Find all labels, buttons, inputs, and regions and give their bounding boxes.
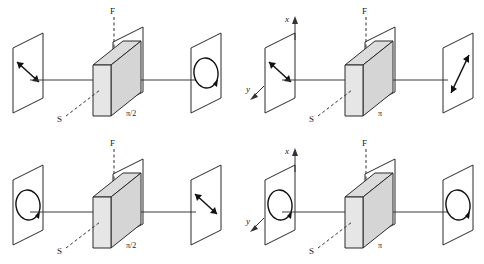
retardation-label: π/2: [126, 241, 136, 250]
fast-axis-label: F: [362, 6, 367, 16]
output-polarization-linear: [451, 55, 469, 93]
output-polarization-circular: [192, 56, 220, 89]
retardation-label: π: [378, 241, 382, 250]
fast-axis-label: F: [110, 6, 115, 16]
waveplate-figure: F S π/2 x y: [0, 0, 484, 264]
output-polarization-linear: [195, 194, 217, 214]
axis-y-label: y: [245, 84, 250, 94]
panel-top-right: x y F: [242, 0, 484, 132]
output-screen: [443, 33, 473, 113]
input-screen: [13, 165, 43, 245]
slow-axis-label: S: [309, 114, 314, 124]
axis-y: y: [245, 84, 264, 100]
axis-x-label: x: [284, 14, 289, 24]
waveplate-plate: [93, 173, 141, 248]
input-polarization-linear: [17, 62, 39, 82]
input-polarization-linear: [269, 62, 291, 82]
output-screen: [443, 165, 473, 245]
axis-y-label: y: [245, 216, 250, 226]
waveplate-plate: [93, 41, 141, 116]
panel-top-left: F S π/2: [0, 0, 242, 132]
input-polarization-circular: [266, 188, 294, 221]
fast-axis-label: F: [110, 138, 115, 148]
fast-axis-label: F: [362, 138, 367, 148]
waveplate-plate: [345, 173, 393, 248]
axis-x: x: [284, 14, 298, 40]
slow-axis-label: S: [57, 246, 62, 256]
slow-axis-label: S: [57, 114, 62, 124]
retardation-label: π: [378, 109, 382, 118]
retardation-label: π/2: [126, 109, 136, 118]
panel-bottom-left: F S π/2: [0, 132, 242, 264]
output-screen: [191, 33, 221, 113]
slow-axis-label: S: [309, 246, 314, 256]
axis-x-label: x: [284, 146, 289, 156]
waveplate-plate: [345, 41, 393, 116]
panel-bottom-right: x y F S π: [242, 132, 484, 264]
input-screen: [265, 165, 295, 245]
axis-y: y: [245, 216, 264, 232]
output-polarization-circular: [444, 188, 472, 221]
input-polarization-circular: [14, 188, 42, 221]
axis-x: x: [284, 146, 298, 172]
